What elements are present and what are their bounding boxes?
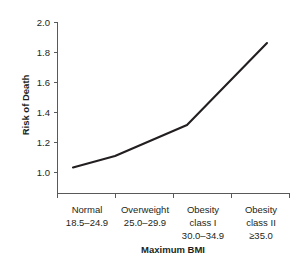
x-tick-label-overweight-line1: Overweight (121, 204, 169, 215)
risk-of-death-series-line (73, 43, 267, 168)
x-tick-label-obesity1-line2: class I (190, 217, 217, 228)
x-tick-label-obesity2-line3: ≥35.0 (249, 230, 273, 241)
x-tick-label-obesity1-line1: Obesity (187, 204, 219, 215)
risk-of-death-line-chart: 2.0 1.8 1.6 1.4 1.2 1.0 Normal 18.5–24.9… (0, 0, 304, 258)
x-tick-label-obesity2-line1: Obesity (245, 204, 277, 215)
chart-svg: 2.0 1.8 1.6 1.4 1.2 1.0 Normal 18.5–24.9… (0, 0, 304, 258)
x-tick-label-overweight-line2: 25.0–29.9 (124, 217, 166, 228)
x-tick-label-obesity2-line2: class II (246, 217, 276, 228)
x-axis-title: Maximum BMI (141, 244, 205, 255)
y-tick-label: 2.0 (37, 17, 50, 28)
x-tick-label-normal-line2: 18.5–24.9 (66, 217, 108, 228)
x-tick-label-normal-line1: Normal (72, 204, 103, 215)
y-tick-label: 1.6 (37, 77, 50, 88)
y-tick-label: 1.0 (37, 167, 50, 178)
y-tick-label: 1.4 (37, 107, 50, 118)
x-tick-label-obesity1-line3: 30.0–34.9 (182, 230, 224, 241)
y-axis-title: Risk of Death (20, 74, 31, 135)
y-tick-label: 1.8 (37, 47, 50, 58)
y-tick-label: 1.2 (37, 137, 50, 148)
